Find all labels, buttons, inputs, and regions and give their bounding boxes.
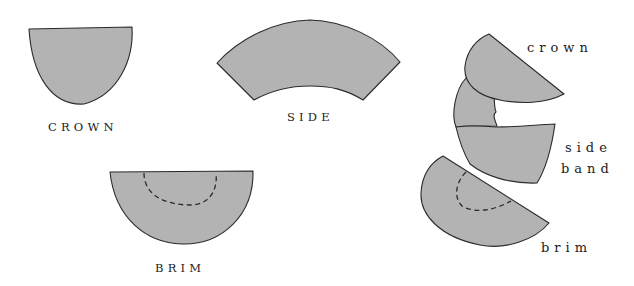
side-pattern-piece: SIDE <box>217 20 400 124</box>
assembly-side-label: side <box>565 140 612 155</box>
assembly-band-label: band <box>561 161 614 176</box>
crown-pattern-piece: CROWN <box>29 27 132 134</box>
assembly-crown-label: crown <box>527 40 593 55</box>
hat-pattern-diagram: CROWN SIDE BRIM crown side band brim <box>0 0 634 286</box>
crown-label: CROWN <box>48 120 118 134</box>
brim-pattern-piece: BRIM <box>110 171 253 275</box>
assembled-hat: crown side band brim <box>421 34 614 255</box>
assembly-brim-label: brim <box>541 240 592 255</box>
side-label: SIDE <box>287 110 334 124</box>
brim-label: BRIM <box>155 261 205 275</box>
